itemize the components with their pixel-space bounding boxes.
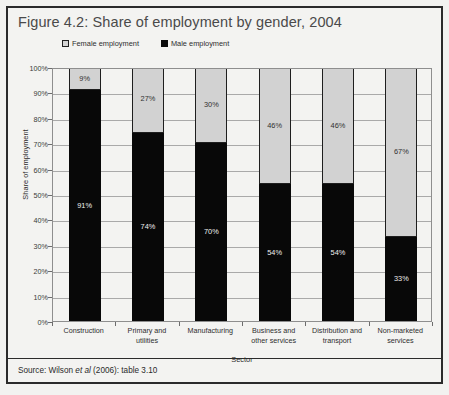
bar-value-label-male: 54% — [267, 249, 282, 256]
bar-segment-female[interactable]: 46% — [322, 68, 354, 184]
legend-item-female: Female employment — [62, 39, 139, 48]
gridline — [53, 120, 431, 121]
female-swatch-icon — [62, 40, 69, 47]
y-tick-label: 70% — [34, 140, 48, 149]
x-tick-label: Non-marketedservices — [369, 326, 432, 347]
bar-column[interactable]: 74%27% — [132, 69, 164, 321]
x-axis-labels: ConstructionPrimary andutilitiesManufact… — [52, 326, 432, 356]
bar-segment-male[interactable]: 74% — [132, 133, 164, 321]
bar-column[interactable]: 54%46% — [322, 69, 354, 321]
gridline — [53, 221, 431, 222]
gridline — [53, 171, 431, 172]
x-tick-label: Construction — [52, 326, 115, 336]
bar-value-label-male: 91% — [77, 202, 92, 209]
y-axis-ticks: 0%10%20%30%40%50%60%70%80%90%100% — [14, 68, 48, 322]
x-tick-mark — [242, 322, 243, 326]
x-tick-mark — [179, 322, 180, 326]
bar-column[interactable]: 33%67% — [385, 69, 417, 321]
y-tick-label: 50% — [34, 191, 48, 200]
bar-value-label-female: 30% — [204, 101, 219, 108]
x-tick-label: Primary andutilities — [115, 326, 178, 347]
y-tick-label: 60% — [34, 165, 48, 174]
bar-value-label-female: 27% — [141, 95, 156, 102]
x-tick-mark — [369, 322, 370, 326]
x-tick-label: Manufacturing — [179, 326, 242, 336]
bar-value-label-female: 9% — [79, 75, 90, 82]
bar-value-label-male: 54% — [331, 249, 346, 256]
y-tick-label: 80% — [34, 114, 48, 123]
bar-value-label-male: 70% — [204, 228, 219, 235]
y-axis-title: Share of employment — [21, 110, 30, 220]
y-tick-label: 30% — [34, 241, 48, 250]
y-tick-label: 0% — [38, 318, 48, 327]
bar-column[interactable]: 91%9% — [69, 69, 101, 321]
bar-column[interactable]: 70%30% — [195, 69, 227, 321]
bar-segment-male[interactable]: 54% — [259, 184, 291, 321]
source-note: Source: Wilson et al (2006): table 3.10 — [18, 366, 157, 375]
y-tick-label: 100% — [30, 64, 48, 73]
x-tick-label: Distribution andtransport — [305, 326, 368, 347]
gridline — [53, 94, 431, 95]
gridline — [53, 272, 431, 273]
bar-value-label-female: 46% — [267, 122, 282, 129]
x-tick-mark — [52, 322, 53, 326]
bar-column[interactable]: 54%46% — [259, 69, 291, 321]
bar-segment-male[interactable]: 91% — [69, 90, 101, 321]
bar-segment-female[interactable]: 67% — [385, 68, 417, 237]
y-tick-label: 10% — [34, 292, 48, 301]
source-suffix: (2006): table 3.10 — [91, 366, 157, 375]
plot-wrapper: 91%9%74%27%70%30%54%46%54%46%33%67% — [52, 68, 432, 322]
bar-segment-male[interactable]: 54% — [322, 184, 354, 321]
bar-value-label-female: 46% — [331, 122, 346, 129]
figure-container: Figure 4.2: Share of employment by gende… — [0, 0, 449, 395]
x-tick-mark — [115, 322, 116, 326]
x-tick-mark — [432, 322, 433, 326]
x-axis-title: Sector — [52, 355, 432, 364]
bar-segment-male[interactable]: 70% — [195, 143, 227, 321]
chart-legend: Female employment Male employment — [62, 39, 229, 48]
y-tick-label: 20% — [34, 267, 48, 276]
bar-segment-female[interactable]: 46% — [259, 68, 291, 184]
x-tick-label: Business andother services — [242, 326, 305, 347]
x-tick-mark — [305, 322, 306, 326]
legend-item-male: Male employment — [161, 39, 229, 48]
bar-segment-female[interactable]: 30% — [195, 68, 227, 143]
gridline — [53, 145, 431, 146]
bar-segment-male[interactable]: 33% — [385, 237, 417, 321]
gridline — [53, 196, 431, 197]
bar-value-label-male: 74% — [141, 223, 156, 230]
bar-value-label-female: 67% — [394, 148, 409, 155]
plot-area: 91%9%74%27%70%30%54%46%54%46%33%67% — [52, 68, 432, 322]
source-italic: et al — [75, 366, 90, 375]
bar-segment-female[interactable]: 9% — [69, 68, 101, 90]
source-divider — [8, 358, 441, 359]
y-tick-label: 40% — [34, 216, 48, 225]
male-swatch-icon — [161, 40, 168, 47]
bar-value-label-male: 33% — [394, 275, 409, 282]
source-prefix: Source: Wilson — [18, 366, 75, 375]
gridline — [53, 247, 431, 248]
chart-title: Figure 4.2: Share of employment by gende… — [18, 14, 342, 30]
legend-label-male: Male employment — [171, 39, 229, 48]
gridline — [53, 298, 431, 299]
y-tick-label: 90% — [34, 89, 48, 98]
legend-label-female: Female employment — [72, 39, 139, 48]
bar-segment-female[interactable]: 27% — [132, 68, 164, 133]
